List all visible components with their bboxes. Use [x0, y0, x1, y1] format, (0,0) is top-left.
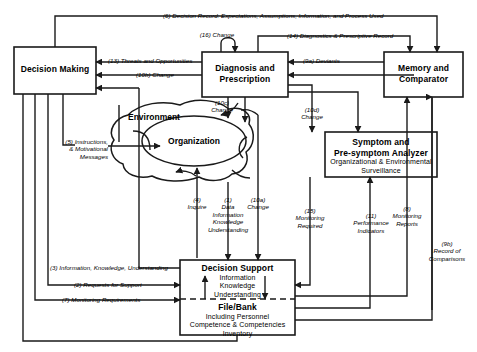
edge-label-10b: (10b) Change	[136, 71, 174, 78]
edge-label-2: (2) Requests for Support	[74, 281, 142, 288]
edge-label-10d: (10d) Change	[288, 106, 336, 121]
edge-label-5: (5) Instructions, & Motivational Message…	[36, 138, 108, 160]
label-file-bank-sub: Including Personnel Competence & Compete…	[180, 313, 295, 339]
edge-label-9b: (9b) Record of Comparisons	[418, 240, 476, 262]
label-file-bank: File/Bank Including Personnel Competence…	[180, 302, 295, 338]
label-organization: Organization	[154, 136, 234, 146]
edge-label-8: (8) Monitoring Reports	[384, 205, 430, 227]
edge-label-3: (3) Information, Knowledge, Understandin…	[50, 264, 168, 271]
label-symptom-analyzer-sub: Organizational & Environmental Surveilla…	[325, 158, 437, 175]
edge-label-7: (7) Monitoring Requirements	[62, 296, 140, 303]
edge-8-run	[295, 225, 407, 296]
edge-15-path	[295, 177, 310, 285]
edge-label-13: (13) Threats and Opportunities	[108, 57, 192, 64]
edge-11-path	[295, 177, 370, 308]
edge-label-10c: (10c) Change	[198, 99, 246, 114]
edge-label-6: (6) Decision Record: Expectations, Assum…	[163, 12, 384, 19]
edge-label-9a: (9a) Deviants	[303, 57, 340, 64]
label-diagnosis-prescription: Diagnosis and Prescription	[202, 63, 288, 84]
label-decision-support-sub: Information Knowledge Understanding	[180, 274, 295, 300]
label-decision-making: Decision Making	[14, 64, 96, 75]
label-memory-comparator: Memory and Comparator	[384, 63, 463, 84]
edge-label-16: (16) Change	[183, 31, 251, 38]
diagram-canvas: Decision Making Diagnosis and Prescripti…	[0, 0, 477, 352]
edge-label-10a: (10a) Change	[238, 196, 278, 211]
edge-label-14: (14) Diagnostics & Prescriptive Record	[287, 32, 393, 39]
label-symptom-analyzer: Symptom and Pre-symptom Analyzer Organiz…	[325, 137, 437, 175]
label-decision-support: Decision Support Information Knowledge U…	[180, 263, 295, 299]
edge-16-path	[221, 38, 235, 52]
edge-label-15: (15) Monitoring Required	[286, 207, 334, 229]
